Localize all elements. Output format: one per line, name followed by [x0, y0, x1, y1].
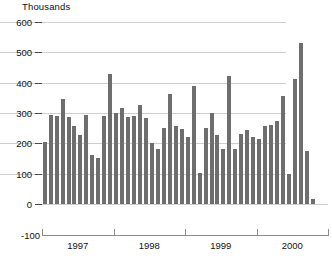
gridline-0 [42, 204, 328, 205]
y-axis-unit-label: Thousands [22, 1, 70, 12]
bar [287, 174, 291, 204]
bar [192, 86, 196, 204]
ytick-label-400: 400 [0, 78, 32, 89]
ytick-label-negative-100: -100 [4, 230, 40, 241]
x-axis-tick [185, 229, 186, 236]
bar [114, 113, 118, 204]
bar [275, 121, 279, 204]
ytick-label-0: 0 [0, 199, 32, 210]
plot-area [42, 18, 328, 204]
ytick-dash-300 [35, 113, 42, 114]
bar [215, 135, 219, 204]
bar [204, 128, 208, 204]
ytick-label-500: 500 [0, 47, 32, 58]
bar [198, 173, 202, 204]
bar [180, 129, 184, 204]
bar [257, 139, 261, 204]
bar [221, 149, 225, 204]
x-axis-label-2000: 2000 [257, 240, 329, 251]
bar [293, 79, 297, 204]
ytick-label-200: 200 [0, 138, 32, 149]
bar [210, 113, 214, 204]
x-axis-tick [114, 229, 115, 236]
ytick-dash-100 [35, 174, 42, 175]
bar [96, 158, 100, 204]
ytick-dash-200 [35, 143, 42, 144]
bar [43, 142, 47, 204]
bar [281, 96, 285, 204]
ytick-dash-500 [35, 52, 42, 53]
bar [269, 125, 273, 204]
bar [144, 118, 148, 204]
bar [239, 134, 243, 204]
bar [138, 105, 142, 204]
ytick-label-600: 600 [0, 17, 32, 28]
x-axis-label-1999: 1999 [185, 240, 257, 251]
bar [174, 126, 178, 204]
bar [263, 126, 267, 204]
bar [90, 155, 94, 204]
bar [186, 137, 190, 204]
bar [150, 143, 154, 204]
bar [311, 199, 315, 204]
ytick-dash-400 [35, 83, 42, 84]
bar [132, 116, 136, 204]
x-axis-label-1998: 1998 [114, 240, 186, 251]
x-axis-tick [42, 229, 43, 236]
bar [61, 99, 65, 204]
bar [120, 108, 124, 204]
bar [227, 76, 231, 204]
bar [55, 116, 59, 204]
bar [102, 116, 106, 204]
bar [84, 115, 88, 204]
bar [251, 137, 255, 204]
bar [299, 43, 303, 204]
x-axis-label-1997: 1997 [42, 240, 114, 251]
bar [126, 117, 130, 204]
bar [78, 135, 82, 204]
bar [156, 149, 160, 204]
bar [49, 115, 53, 204]
bar [108, 74, 112, 204]
ytick-label-100: 100 [0, 169, 32, 180]
bar-chart: Thousands 600 500 400 300 200 100 0 -100… [0, 0, 332, 260]
bar [233, 149, 237, 204]
bar [305, 151, 309, 204]
bar [245, 130, 249, 204]
ytick-dash-600 [35, 22, 42, 23]
x-axis-tick [257, 229, 258, 236]
bar [168, 94, 172, 204]
ytick-label-300: 300 [0, 108, 32, 119]
bar [162, 128, 166, 204]
x-axis-tick [328, 229, 329, 236]
bar [72, 126, 76, 204]
ytick-dash-0 [35, 204, 42, 205]
bar [67, 117, 71, 204]
